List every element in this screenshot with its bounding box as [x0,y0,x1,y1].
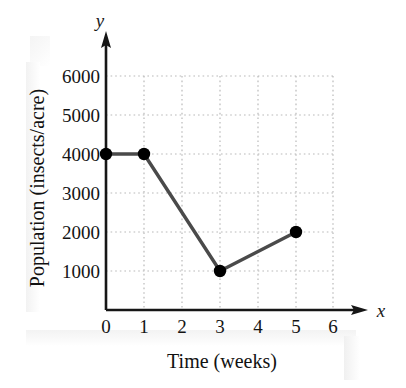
data-line [106,154,296,271]
y-tick-label: 4000 [62,144,100,165]
axes [101,31,368,315]
y-axis-variable-label: y [94,10,105,31]
y-tick-label: 6000 [62,66,100,87]
y-tick-label: 3000 [62,183,100,204]
x-tick-label: 6 [328,316,338,337]
data-point-marker [290,226,302,238]
data-point-marker [214,265,226,277]
data-point-marker [138,148,150,160]
data-point-marker [100,148,112,160]
x-axis-variable-label: x [376,300,386,321]
x-tick-label: 2 [177,316,187,337]
x-tick-label: 3 [215,316,225,337]
x-axis-title: Time (weeks) [167,350,277,373]
figure-container: 6000 5000 4000 3000 2000 1000 0 1 2 3 4 … [0,0,406,388]
y-tick-label: 2000 [62,222,100,243]
x-tick-label: 0 [101,316,111,337]
line-chart: 6000 5000 4000 3000 2000 1000 0 1 2 3 4 … [0,0,406,388]
x-tick-labels: 0 1 2 3 4 5 6 [101,316,338,337]
x-tick-label: 4 [253,316,263,337]
x-tick-label: 1 [139,316,149,337]
y-tick-labels: 6000 5000 4000 3000 2000 1000 [62,66,100,282]
y-axis-title: Population (insects/acre) [26,89,49,287]
x-tick-label: 5 [291,316,301,337]
y-tick-label: 5000 [62,105,100,126]
data-series-population [100,148,302,277]
y-tick-label: 1000 [62,261,100,282]
